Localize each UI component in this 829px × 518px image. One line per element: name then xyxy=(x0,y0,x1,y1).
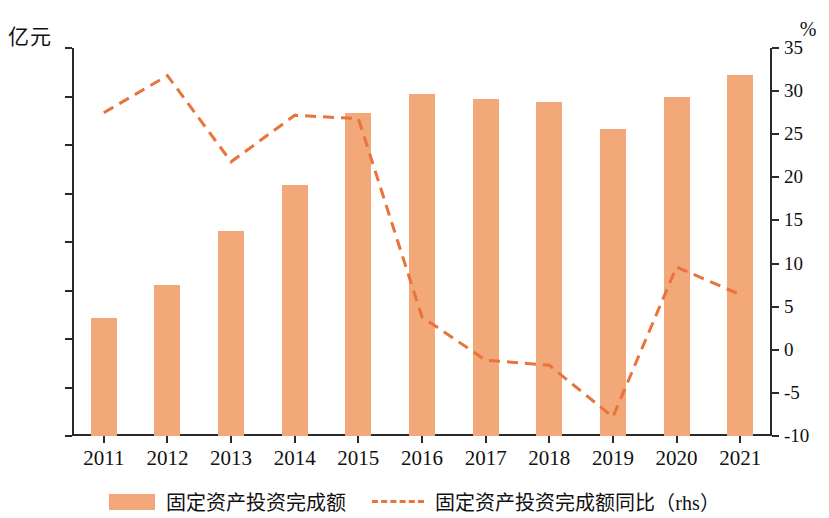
right-axis-tick-label: 5 xyxy=(784,296,794,318)
x-axis-tick-label: 2016 xyxy=(401,446,443,471)
fixed-asset-investment-chart: 亿元 % 010002000300040005000600070008000 -… xyxy=(0,0,829,518)
right-axis-tick-mark xyxy=(772,435,779,437)
left-axis-tick-mark xyxy=(65,435,72,437)
x-axis-tick-label: 2012 xyxy=(146,446,188,471)
right-axis-tick-mark xyxy=(772,263,779,265)
x-axis-tick-label: 2015 xyxy=(337,446,379,471)
x-axis-tick-mark xyxy=(357,436,359,443)
right-axis-tick-label: 15 xyxy=(784,209,803,231)
right-axis-tick-mark xyxy=(772,306,779,308)
right-axis-tick-mark xyxy=(772,90,779,92)
x-axis-tick-mark xyxy=(230,436,232,443)
x-axis-tick-mark xyxy=(103,436,105,443)
x-axis-tick-mark xyxy=(548,436,550,443)
right-axis-tick-mark xyxy=(772,47,779,49)
chart-legend: 固定资产投资完成额 固定资产投资完成额同比（rhs） xyxy=(0,487,829,516)
x-axis-tick-mark xyxy=(676,436,678,443)
legend-item-bar: 固定资产投资完成额 xyxy=(109,487,346,516)
right-axis-tick-mark xyxy=(772,219,779,221)
right-axis-tick-label: -5 xyxy=(784,382,800,404)
x-axis-tick-label: 2013 xyxy=(210,446,252,471)
right-axis-tick-label: -10 xyxy=(784,425,809,447)
legend-item-line: 固定资产投资完成额同比（rhs） xyxy=(372,487,719,516)
x-axis-tick-mark xyxy=(485,436,487,443)
x-axis-tick-mark xyxy=(612,436,614,443)
x-axis-tick-mark xyxy=(294,436,296,443)
x-axis-tick-label: 2021 xyxy=(719,446,761,471)
x-axis-tick-mark xyxy=(166,436,168,443)
x-axis-tick-label: 2020 xyxy=(656,446,698,471)
x-axis-tick-label: 2014 xyxy=(274,446,316,471)
right-axis-tick-label: 10 xyxy=(784,253,803,275)
left-axis-tick-mark xyxy=(65,144,72,146)
plot-area: 010002000300040005000600070008000 -10-50… xyxy=(72,48,772,436)
line-path xyxy=(104,76,740,417)
x-axis-tick-mark xyxy=(739,436,741,443)
legend-bar-label: 固定资产投资完成额 xyxy=(166,487,346,516)
right-axis-tick-label: 35 xyxy=(784,37,803,59)
legend-line-label: 固定资产投资完成额同比（rhs） xyxy=(435,487,719,516)
left-axis-tick-mark xyxy=(65,96,72,98)
x-axis-tick-label: 2019 xyxy=(592,446,634,471)
x-axis-tick-label: 2017 xyxy=(465,446,507,471)
right-axis-tick-label: 25 xyxy=(784,123,803,145)
left-axis-tick-mark xyxy=(65,338,72,340)
right-axis-tick-mark xyxy=(772,392,779,394)
right-axis-tick-mark xyxy=(772,176,779,178)
right-axis-tick-label: 20 xyxy=(784,166,803,188)
x-axis-tick-label: 2011 xyxy=(83,446,124,471)
right-axis-tick-mark xyxy=(772,349,779,351)
left-axis-tick-mark xyxy=(65,387,72,389)
legend-bar-swatch-icon xyxy=(109,494,155,510)
left-axis-unit-label: 亿元 xyxy=(8,20,51,50)
right-axis-tick-label: 30 xyxy=(784,80,803,102)
left-axis-tick-mark xyxy=(65,193,72,195)
legend-line-swatch-icon xyxy=(372,500,424,503)
left-axis-tick-mark xyxy=(65,290,72,292)
left-axis-tick-mark xyxy=(65,47,72,49)
left-axis-tick-mark xyxy=(65,241,72,243)
x-axis-tick-mark xyxy=(421,436,423,443)
right-axis-tick-label: 0 xyxy=(784,339,794,361)
x-axis-labels: 2011201220132014201520162017201820192020… xyxy=(72,436,772,476)
line-series xyxy=(72,48,772,436)
right-axis-tick-mark xyxy=(772,133,779,135)
x-axis-tick-label: 2018 xyxy=(528,446,570,471)
